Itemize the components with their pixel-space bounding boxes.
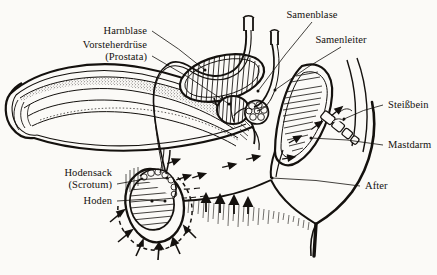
label-samenleiter: Samenleiter bbox=[315, 34, 366, 46]
anchor-after bbox=[271, 177, 274, 180]
label-samenblase: Samenblase bbox=[286, 9, 337, 21]
leader-after bbox=[272, 178, 360, 186]
label-vorsteherdruese: Vorsteherdrüse(Prostata) bbox=[83, 39, 147, 62]
anatomical-figure: HarnblaseVorsteherdrüse(Prostata)Samenbl… bbox=[0, 0, 437, 275]
testicle-group bbox=[110, 148, 196, 260]
anchor-vorsteherdruese bbox=[228, 103, 231, 106]
label-harnblase: Harnblase bbox=[104, 25, 147, 37]
label-harnblase-line1: Harnblase bbox=[104, 25, 147, 36]
label-after: After bbox=[365, 180, 388, 192]
anchor-samenleiter bbox=[274, 89, 277, 92]
seminal-vesicle-group bbox=[245, 100, 269, 124]
anchor-steissbein bbox=[343, 118, 346, 121]
label-hoden-line1: Hoden bbox=[84, 195, 113, 206]
label-vorsteherdruese-line2: (Prostata) bbox=[83, 50, 147, 62]
anchor-samenblase bbox=[257, 90, 260, 93]
label-hodensack-line2: (Scrotum) bbox=[64, 178, 112, 190]
label-steissbein-line1: Steißbein bbox=[388, 99, 429, 110]
label-vorsteherdruese-line1: Vorsteherdrüse bbox=[83, 39, 147, 50]
label-samenblase-line1: Samenblase bbox=[286, 9, 337, 20]
label-mastdarm-line1: Mastdarm bbox=[388, 139, 431, 150]
pelvic-arrows bbox=[202, 194, 252, 214]
label-hodensack-line1: Hodensack bbox=[64, 167, 112, 178]
anchor-hodensack bbox=[166, 177, 169, 180]
label-hoden: Hoden bbox=[84, 195, 113, 207]
label-hodensack: Hodensack(Scrotum) bbox=[64, 167, 112, 190]
anchor-hoden bbox=[164, 200, 167, 203]
anchor-harnblase bbox=[204, 69, 207, 72]
label-samenleiter-line1: Samenleiter bbox=[315, 34, 366, 45]
leader-steissbein bbox=[344, 105, 383, 119]
label-mastdarm: Mastdarm bbox=[388, 139, 431, 151]
label-after-line1: After bbox=[365, 180, 388, 191]
anchor-mastdarm bbox=[310, 137, 313, 140]
anatomy-illustration bbox=[0, 0, 437, 275]
label-steissbein: Steißbein bbox=[388, 99, 429, 111]
